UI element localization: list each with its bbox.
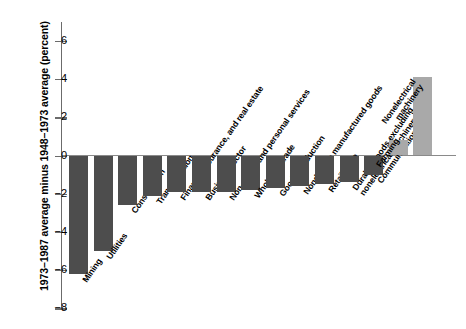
bar xyxy=(192,156,211,192)
bar xyxy=(167,156,186,192)
bar xyxy=(118,156,137,206)
bars-layer: MiningUtilitiesConstructionTransportatio… xyxy=(0,0,466,329)
bar xyxy=(94,156,113,252)
bar-chart: 1973–1987 average minus 1948–1973 averag… xyxy=(0,0,466,329)
bar xyxy=(266,156,285,188)
bar xyxy=(143,156,162,196)
bar xyxy=(69,156,88,274)
